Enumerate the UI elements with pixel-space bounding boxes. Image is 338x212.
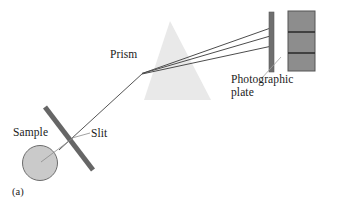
- photographic-plate-label-line2: plate: [231, 86, 305, 99]
- photographic-plate-edge-bar: [269, 12, 274, 72]
- figure-caption: (a): [12, 186, 24, 198]
- slit-label: Slit: [91, 127, 107, 140]
- photographic-plate-label: Photographic plate: [231, 73, 305, 99]
- photographic-plate-label-line1: Photographic: [231, 73, 305, 86]
- diagram-canvas: [0, 0, 338, 212]
- spectroscope-diagram: Prism Photographic plate Sample Slit (a): [0, 0, 338, 212]
- prism-label: Prism: [110, 48, 137, 61]
- sample-circle: [23, 146, 58, 181]
- sample-label: Sample: [13, 126, 48, 139]
- photographic-plate-panel: [288, 11, 315, 71]
